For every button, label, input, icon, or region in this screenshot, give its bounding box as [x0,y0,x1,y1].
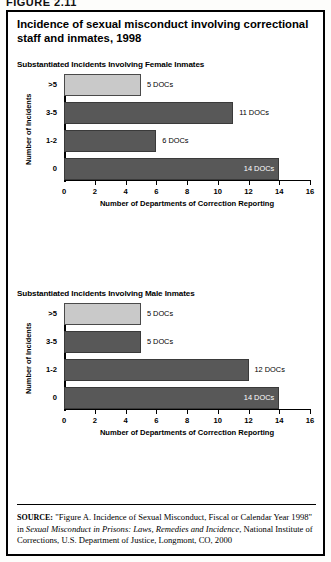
x-tick-mark [249,410,250,414]
x-tick-label: 4 [117,187,135,196]
bar [64,359,249,381]
x-tick-mark [126,181,127,185]
x-tick-label: 0 [55,416,73,425]
x-tick-mark [156,410,157,414]
bar [64,331,141,353]
x-tick-label: 0 [55,187,73,196]
x-tick-mark [310,181,311,185]
x-tick-mark [156,181,157,185]
bar-value-label: 14 DOCs [244,393,274,402]
y-tick-label: >5 [48,80,57,89]
source-note: SOURCE: "Figure A. Incidence of Sexual M… [17,512,317,546]
source-keyword: SOURCE: [17,513,53,522]
figure-title: Incidence of sexual misconduct involving… [17,18,313,45]
y-tick-label: 1-2 [46,136,57,145]
x-tick-label: 4 [117,416,135,425]
x-tick-label: 14 [270,416,288,425]
bar-value-label: 5 DOCs [147,337,173,346]
x-tick-mark [279,410,280,414]
x-tick-label: 6 [147,416,165,425]
bar-value-label: 14 DOCs [244,164,274,173]
y-tick-label: 0 [53,393,57,402]
bar-value-label: 11 DOCs [239,108,269,117]
y-tick-label: 3-5 [46,108,57,117]
bar [64,102,233,124]
x-tick-label: 16 [301,416,319,425]
page-header-label: FIGURE 2.11 [6,0,126,8]
x-tick-label: 10 [209,187,227,196]
x-tick-label: 14 [270,187,288,196]
chart-subtitle: Substantiated Incidents Involving Female… [17,60,204,69]
bar [64,303,141,325]
bar [64,130,156,152]
x-tick-label: 10 [209,416,227,425]
figure-box: Incidence of sexual misconduct involving… [6,10,325,556]
x-tick-mark [187,410,188,414]
bar-value-label: 12 DOCs [255,365,285,374]
y-axis-title: Number of Incidents [24,94,33,165]
y-axis-title: Number of Incidents [24,323,33,394]
x-tick-label: 8 [178,416,196,425]
x-tick-label: 12 [240,416,258,425]
y-tick-label: 0 [53,164,57,173]
y-tick-label: 3-5 [46,337,57,346]
bar [64,74,141,96]
figure-page: FIGURE 2.11 Incidence of sexual miscondu… [0,0,331,562]
x-tick-label: 6 [147,187,165,196]
x-tick-label: 2 [86,187,104,196]
y-tick-label: 1-2 [46,365,57,374]
x-tick-mark [279,181,280,185]
x-tick-mark [187,181,188,185]
bar-value-label: 6 DOCs [162,136,188,145]
x-tick-label: 16 [301,187,319,196]
x-tick-mark [95,181,96,185]
x-tick-mark [218,410,219,414]
x-axis-title: Number of Departments of Correction Repo… [64,199,310,208]
source-publication-title: Sexual Misconduct in Prisons: Laws, Reme… [26,524,239,534]
source-divider [17,504,316,505]
x-tick-mark [126,410,127,414]
bar-value-label: 5 DOCs [147,80,173,89]
x-tick-label: 8 [178,187,196,196]
y-tick-label: >5 [48,309,57,318]
x-tick-mark [95,410,96,414]
x-tick-label: 2 [86,416,104,425]
x-tick-mark [249,181,250,185]
x-axis-title: Number of Departments of Correction Repo… [64,428,310,437]
chart-subtitle: Substantiated Incidents Involving Male I… [17,289,195,298]
x-tick-label: 12 [240,187,258,196]
x-tick-mark [218,181,219,185]
x-tick-mark [310,410,311,414]
bar-value-label: 5 DOCs [147,309,173,318]
